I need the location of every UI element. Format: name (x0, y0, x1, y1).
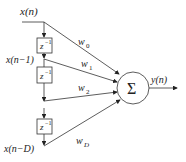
svg-text:−1: −1 (45, 120, 51, 126)
delay-box-1: z −1 (37, 38, 52, 53)
delay-box-2: z −1 (37, 67, 52, 83)
svg-text:Σ: Σ (127, 80, 136, 97)
weight-label-0: w0 (78, 36, 90, 50)
svg-text:D: D (83, 141, 89, 149)
svg-text:w: w (76, 135, 83, 146)
svg-text:0: 0 (86, 42, 90, 50)
weight-label-2: w2 (78, 82, 90, 96)
svg-text:w: w (78, 82, 85, 93)
svg-text:z: z (39, 71, 44, 81)
svg-text:z: z (39, 122, 44, 132)
svg-text:−1: −1 (45, 69, 51, 75)
svg-text:z: z (39, 41, 44, 51)
delay-box-3: z −1 (37, 119, 52, 134)
delayed-label-D: x(n−D) (3, 143, 35, 155)
weight-label-D: wD (76, 135, 89, 149)
svg-text:−1: −1 (45, 39, 51, 45)
svg-text:1: 1 (89, 64, 93, 72)
svg-text:w: w (78, 36, 85, 47)
svg-text:2: 2 (86, 88, 90, 96)
svg-text:w: w (81, 58, 88, 69)
diagram-canvas: x(n) z −1 x(n−1) z −1 z −1 x(n−D) w0 w1 … (0, 0, 186, 162)
fir-filter-diagram: x(n) z −1 x(n−1) z −1 z −1 x(n−D) w0 w1 … (0, 0, 186, 162)
delayed-label-1: x(n−1) (5, 54, 35, 66)
tap-line-2 (44, 92, 117, 101)
output-label: y(n) (150, 74, 168, 86)
weight-label-1: w1 (81, 58, 93, 72)
sum-node: Σ (117, 72, 149, 104)
input-label: x(n) (19, 5, 38, 18)
